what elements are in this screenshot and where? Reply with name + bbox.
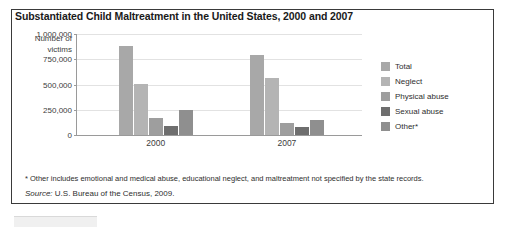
legend-label: Sexual abuse <box>395 107 443 116</box>
legend-label: Other* <box>395 122 418 131</box>
bar-2007-other <box>310 120 324 135</box>
legend-item-physical-abuse: Physical abuse <box>381 89 481 104</box>
plot-area <box>76 34 362 136</box>
plot-wrapper: 1,000,000750,000500,000250,0000 20002007 <box>76 34 361 146</box>
bar-group-2000 <box>119 34 194 135</box>
legend-item-neglect: Neglect <box>381 74 481 89</box>
bar-2000-other <box>179 110 193 135</box>
source-note: Source: U.S. Bureau of the Census, 2009. <box>25 189 174 198</box>
bar-group-2007 <box>250 34 325 135</box>
legend-swatch <box>381 107 390 116</box>
page-artifact <box>14 216 97 227</box>
y-axis-tick-label: 1,000,000 <box>36 30 72 39</box>
legend-swatch <box>381 92 390 101</box>
y-axis-tick-label: 500,000 <box>43 80 72 89</box>
legend-label: Neglect <box>395 77 422 86</box>
legend-item-total: Total <box>381 59 481 74</box>
bar-2000-neglect <box>134 84 148 136</box>
legend-swatch <box>381 122 390 131</box>
bar-2007-neglect <box>265 78 279 135</box>
legend-swatch <box>381 77 390 86</box>
axis-tick-mark <box>74 85 77 86</box>
bar-2007-physical-abuse <box>280 123 294 135</box>
y-axis-tick-label: 0 <box>68 131 72 140</box>
legend-item-other: Other* <box>381 119 481 134</box>
axis-tick-mark <box>74 59 77 60</box>
axis-tick-mark <box>74 34 77 35</box>
y-axis-tick-label: 750,000 <box>43 55 72 64</box>
bar-2000-physical-abuse <box>149 118 163 135</box>
page-title: Substantiated Child Maltreatment in the … <box>15 10 353 22</box>
axis-tick-mark <box>74 110 77 111</box>
y-axis-tick-label: 250,000 <box>43 105 72 114</box>
x-axis-tick-label: 2007 <box>257 138 317 148</box>
bar-2007-sexual-abuse <box>295 127 309 135</box>
footnote: * Other includes emotional and medical a… <box>25 174 424 183</box>
legend-label: Physical abuse <box>395 92 449 101</box>
source-label: Source: <box>25 189 53 198</box>
legend-label: Total <box>395 62 412 71</box>
chart-legend: TotalNeglectPhysical abuseSexual abuseOt… <box>381 59 481 134</box>
bar-2000-total <box>119 46 133 135</box>
legend-item-sexual-abuse: Sexual abuse <box>381 104 481 119</box>
legend-swatch <box>381 62 390 71</box>
bar-2007-total <box>250 55 264 135</box>
x-axis-tick-label: 2000 <box>126 138 186 148</box>
bar-2000-sexual-abuse <box>164 126 178 135</box>
axis-tick-mark <box>74 135 77 136</box>
y-axis-tick-labels: 1,000,000750,000500,000250,0000 <box>12 34 72 135</box>
source-text: U.S. Bureau of the Census, 2009. <box>53 189 175 198</box>
